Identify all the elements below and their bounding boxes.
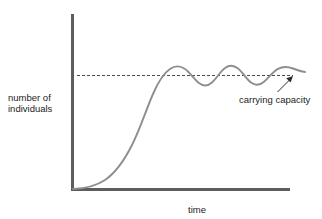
figure-canvas: number of individuals time carrying capa… bbox=[0, 0, 322, 219]
y-axis-label-line1: number of bbox=[8, 92, 51, 103]
y-axis-label-line2: individuals bbox=[8, 103, 53, 114]
carrying-capacity-annotation-label: carrying capacity bbox=[239, 94, 311, 105]
logistic-growth-figure: number of individuals time carrying capa… bbox=[0, 0, 322, 219]
x-axis-label: time bbox=[188, 204, 206, 215]
